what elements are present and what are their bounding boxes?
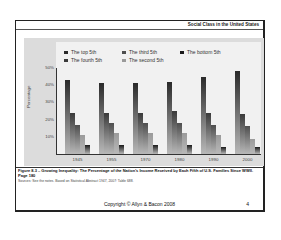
caption-text: Figure 8.3 – Growing Inequality: The Per… [18,168,259,173]
legend-swatch [64,59,68,62]
bar [85,145,90,154]
chart-legend: The top 5thThe third 5thThe bottom 5thTh… [64,49,249,67]
y-tick-label: 30% [36,99,54,104]
legend-swatch [122,51,126,54]
legend-swatch [64,51,68,54]
header-divider [16,29,263,30]
y-tick-label: 50% [36,65,54,70]
legend-item: The fourth 5th [64,57,102,63]
chart-panel: The top 5thThe third 5thThe bottom 5thTh… [24,38,264,166]
x-tick-label: 1970 [136,157,156,162]
legend-item: The top 5th [64,49,96,55]
legend-item: The second 5th [122,57,163,63]
page-number: 4 [246,201,249,207]
bar-groups [57,68,261,154]
legend-label: The top 5th [71,49,96,55]
x-tick-label: 1945 [68,157,88,162]
x-tick-label: 1990 [204,157,224,162]
y-tick-label: 20% [36,117,54,122]
legend-swatch [180,51,184,54]
slide: Social Class in the United States The to… [15,20,265,212]
bar [255,147,260,154]
x-axis-line [56,154,261,155]
bar [119,145,124,154]
y-tick-label: 10% [36,134,54,139]
x-tick-label: 1980 [170,157,190,162]
legend-label: The third 5th [129,49,157,55]
y-axis-label: Percentage [26,86,31,108]
legend-item: The bottom 5th [180,49,221,55]
caption-page: Page 180 [18,173,259,178]
legend-item: The third 5th [122,49,157,55]
x-tick-label: 2000 [238,157,258,162]
y-tick-label: 40% [36,82,54,87]
figure-caption: Figure 8.3 – Growing Inequality: The Per… [18,168,259,178]
bar [221,147,226,154]
legend-label: The second 5th [129,57,163,63]
bar [153,145,158,154]
copyright-footer: Copyright © Allyn & Bacon 2008 [16,201,263,207]
bar [187,145,192,154]
legend-label: The fourth 5th [71,57,102,63]
slide-header-title: Social Class in the United States [188,22,259,27]
source-note: Sources: See the notes. Based on Statist… [18,179,133,183]
legend-swatch [122,59,126,62]
legend-label: The bottom 5th [187,49,221,55]
x-tick-label: 1955 [102,157,122,162]
